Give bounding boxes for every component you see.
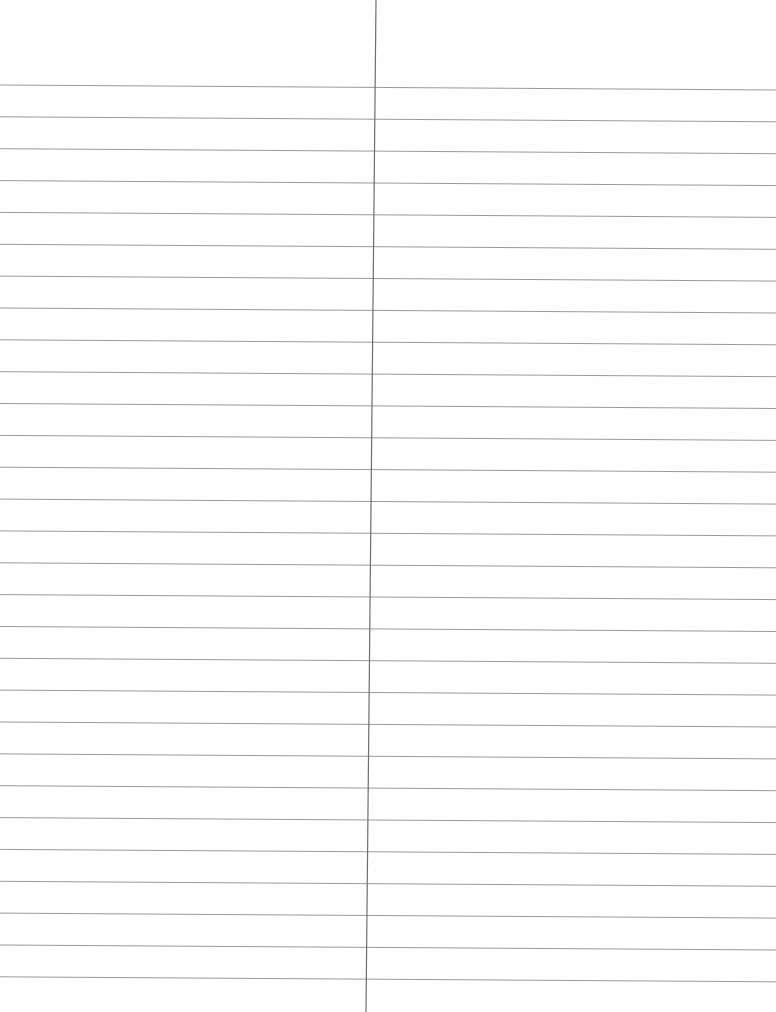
horizontal-rule [0,244,776,249]
horizontal-rule [0,977,776,982]
horizontal-rule [0,563,776,568]
horizontal-rule [0,467,776,472]
horizontal-rule [0,149,776,154]
horizontal-rule [0,531,776,536]
horizontal-rule [0,85,776,90]
horizontal-rule [0,595,776,600]
horizontal-rule [0,754,776,759]
horizontal-rule [0,435,776,440]
horizontal-rule [0,404,776,409]
horizontal-rule [0,340,776,345]
horizontal-rule [0,722,776,727]
horizontal-rule [0,308,776,313]
horizontal-rule [0,818,776,823]
horizontal-rule [0,181,776,186]
horizontal-rule [0,881,776,886]
horizontal-rules [0,85,776,982]
ruled-lines [0,0,776,1012]
column-divider [366,0,376,1012]
horizontal-rule [0,212,776,217]
horizontal-rule [0,276,776,281]
horizontal-rule [0,945,776,950]
horizontal-rule [0,849,776,854]
horizontal-rule [0,786,776,791]
horizontal-rule [0,690,776,695]
horizontal-rule [0,499,776,504]
horizontal-rule [0,372,776,377]
ruled-page [0,0,776,1012]
horizontal-rule [0,658,776,663]
horizontal-rule [0,627,776,632]
horizontal-rule [0,117,776,122]
horizontal-rule [0,913,776,918]
